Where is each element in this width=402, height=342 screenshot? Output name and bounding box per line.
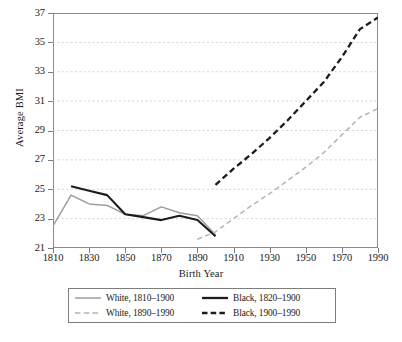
x-tick-label: 1810 xyxy=(33,252,73,263)
y-tick-label: 23 xyxy=(15,213,45,223)
legend-entry: Black, 1900–1990 xyxy=(202,308,329,318)
x-tick-mark xyxy=(53,248,54,253)
x-tick-label: 1950 xyxy=(286,252,326,263)
x-tick-mark xyxy=(89,248,90,253)
x-tick-mark xyxy=(270,248,271,253)
legend-line-swatch xyxy=(75,310,101,316)
x-tick-label: 1870 xyxy=(141,252,181,263)
legend-line-swatch xyxy=(202,310,228,316)
series-line xyxy=(71,186,215,236)
series-line xyxy=(197,108,378,239)
x-tick-label: 1910 xyxy=(214,252,254,263)
y-tick-label: 35 xyxy=(15,37,45,47)
x-tick-mark xyxy=(161,248,162,253)
gridlines xyxy=(53,42,378,218)
legend-entry: White, 1890–1990 xyxy=(75,308,202,318)
x-tick-mark xyxy=(306,248,307,253)
data-series-group xyxy=(53,17,378,239)
x-tick-label: 1830 xyxy=(69,252,109,263)
y-tick-label: 25 xyxy=(15,184,45,194)
chart-legend: White, 1810–1900Black, 1820–1900White, 1… xyxy=(68,288,336,323)
legend-label: Black, 1820–1900 xyxy=(233,293,300,303)
legend-label: Black, 1900–1990 xyxy=(233,308,300,318)
y-tick-label: 27 xyxy=(15,154,45,164)
x-tick-label: 1990 xyxy=(358,252,398,263)
x-tick-mark xyxy=(197,248,198,253)
x-tick-mark xyxy=(234,248,235,253)
x-axis-title: Birth Year xyxy=(0,268,402,279)
y-tick-label: 33 xyxy=(15,66,45,76)
bmi-line-chart-figure: Average BMI 212325272931333537 181018301… xyxy=(0,0,402,342)
legend-entry: White, 1810–1900 xyxy=(75,293,202,303)
legend-entry: Black, 1820–1900 xyxy=(202,293,329,303)
legend-line-swatch xyxy=(75,295,101,301)
y-tick-label: 29 xyxy=(15,125,45,135)
legend-label: White, 1810–1900 xyxy=(106,293,174,303)
y-tick-label: 31 xyxy=(15,96,45,106)
x-tick-label: 1970 xyxy=(322,252,362,263)
x-tick-mark xyxy=(378,248,379,253)
chart-canvas xyxy=(53,13,378,248)
x-tick-mark xyxy=(342,248,343,253)
x-tick-label: 1930 xyxy=(250,252,290,263)
y-tick-label: 37 xyxy=(15,8,45,18)
x-tick-label: 1850 xyxy=(105,252,145,263)
y-tick-label: 21 xyxy=(15,243,45,253)
x-tick-mark xyxy=(125,248,126,253)
x-tick-label: 1890 xyxy=(177,252,217,263)
legend-label: White, 1890–1990 xyxy=(106,308,174,318)
figure-caption xyxy=(18,334,388,342)
legend-line-swatch xyxy=(202,295,228,301)
